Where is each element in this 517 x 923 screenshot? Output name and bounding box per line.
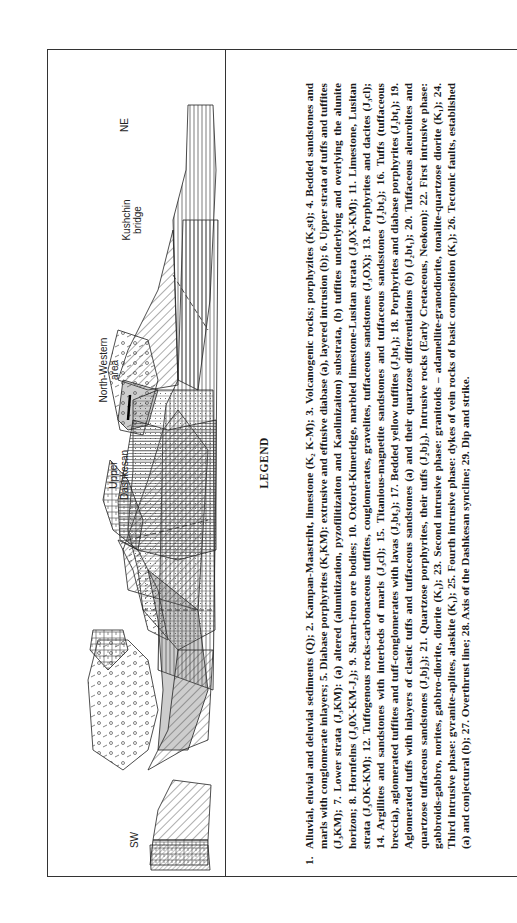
unit-sw-diag-left (153, 780, 211, 840)
label-dashkesan-line2: Dashkesan (119, 450, 130, 500)
legend-title: LEGEND (258, 63, 278, 863)
label-kushchin-line2: bridge (132, 206, 143, 234)
legend-body: 1. Alluvial, eluvial and deluvial sedime… (302, 63, 472, 863)
label-nw-line1: North-Western (98, 338, 109, 403)
label-kushchin-line1: Kushchin (121, 199, 132, 240)
legend-text: Alluvial, eluvial and deluvial sediments… (303, 83, 471, 849)
label-sw: SW (129, 831, 140, 848)
label-nw-line2: area (109, 360, 120, 380)
unit-sw-fine (150, 845, 210, 870)
legend-panel: LEGEND 1. Alluvial, eluvial and deluvial… (226, 50, 505, 876)
label-ne: NE (119, 118, 130, 132)
legend-first-number: 1. (302, 857, 316, 865)
geological-cross-section: NE SW Kushchin bridge North-Western area… (48, 50, 225, 876)
label-dashkesan-line1: Upper (108, 461, 119, 489)
